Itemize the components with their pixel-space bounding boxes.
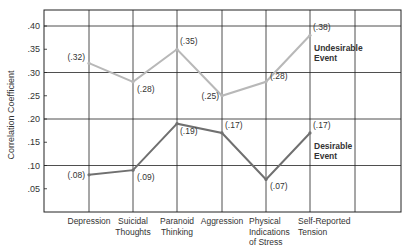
- data-point: [131, 169, 134, 172]
- x-axis-categories: DepressionSuicidalThoughtsParanoidThinki…: [68, 216, 351, 247]
- series-undesirable-event: (.32)(.28)(.35)(.25)(.28)(.38)Undesirabl…: [68, 22, 363, 100]
- data-point: [264, 80, 267, 83]
- y-tick-label: .10: [27, 161, 40, 171]
- data-value-label: (.07): [270, 181, 288, 191]
- data-value-label: (.28): [137, 84, 155, 94]
- chart-series: (.32)(.28)(.35)(.25)(.28)(.38)Undesirabl…: [68, 22, 363, 191]
- series-legend-label: Event: [314, 53, 337, 63]
- y-tick-label: .15: [27, 137, 40, 147]
- data-value-label: (.38): [313, 22, 331, 32]
- chart-grid: [44, 10, 401, 212]
- data-point: [220, 131, 223, 134]
- data-point: [175, 48, 178, 51]
- x-category-label: ParanoidThinking: [160, 216, 194, 237]
- data-point: [308, 131, 311, 134]
- x-category-label: PhysicalIndicationsof Stress: [249, 216, 290, 247]
- svg-text:Indications: Indications: [249, 227, 290, 237]
- y-tick-label: .05: [27, 184, 40, 194]
- data-value-label: (.09): [137, 172, 155, 182]
- data-point: [131, 80, 134, 83]
- data-value-label: (.28): [270, 71, 288, 81]
- data-point: [175, 122, 178, 125]
- data-point: [87, 62, 90, 65]
- svg-text:Aggression: Aggression: [201, 216, 244, 226]
- svg-text:Tension: Tension: [298, 227, 328, 237]
- series-legend-label: Undesirable: [314, 43, 363, 53]
- plot-border: [44, 10, 401, 212]
- svg-text:Thoughts: Thoughts: [115, 227, 150, 237]
- svg-text:Self-Reported: Self-Reported: [298, 216, 351, 226]
- data-value-label: (.25): [202, 91, 220, 101]
- svg-text:Paranoid: Paranoid: [160, 216, 194, 226]
- svg-text:Suicidal: Suicidal: [118, 216, 148, 226]
- data-value-label: (.17): [313, 120, 331, 130]
- data-value-label: (.19): [180, 126, 198, 136]
- y-axis-label: Correlation Coefficient: [6, 70, 16, 159]
- y-tick-label: .25: [27, 91, 40, 101]
- svg-text:of Stress: of Stress: [249, 237, 283, 247]
- data-point: [264, 178, 267, 181]
- y-tick-label: .20: [27, 114, 40, 124]
- svg-text:Thinking: Thinking: [161, 227, 193, 237]
- data-point: [220, 94, 223, 97]
- data-point: [87, 173, 90, 176]
- y-tick-label: .40: [27, 21, 40, 31]
- data-value-label: (.32): [68, 52, 86, 62]
- svg-text:Physical: Physical: [249, 216, 281, 226]
- series-line: [89, 124, 310, 180]
- y-tick-label: .30: [27, 68, 40, 78]
- y-tick-label: .35: [27, 44, 40, 54]
- series-line: [89, 35, 310, 95]
- x-category-label: SuicidalThoughts: [115, 216, 150, 237]
- series-legend-label: Desirable: [314, 141, 353, 151]
- data-value-label: (.35): [180, 36, 198, 46]
- data-value-label: (.08): [68, 170, 86, 180]
- x-category-label: Depression: [68, 216, 111, 226]
- correlation-line-chart: .05.10.15.20.25.30.35.40 Correlation Coe…: [0, 0, 404, 248]
- x-category-label: Self-ReportedTension: [298, 216, 351, 237]
- data-point: [308, 34, 311, 37]
- x-category-label: Aggression: [201, 216, 244, 226]
- series-legend-label: Event: [314, 151, 337, 161]
- data-value-label: (.17): [225, 120, 243, 130]
- svg-text:Depression: Depression: [68, 216, 111, 226]
